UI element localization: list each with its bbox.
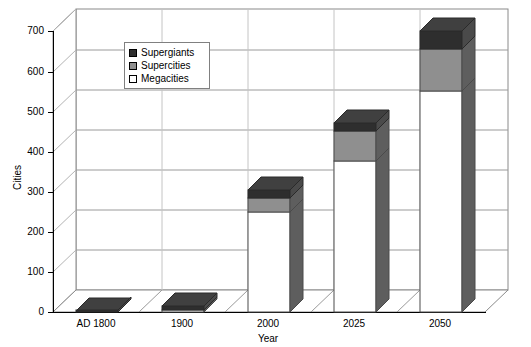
legend-label-supergiants: Supergiants (141, 47, 194, 58)
bar-2050-megacities-side (462, 78, 475, 312)
legend-swatch-megacities-icon (129, 75, 137, 83)
legend-label-supercities: Supercities (141, 60, 190, 71)
legend-swatch-supergiants-icon (129, 49, 137, 57)
bar-2050-megacities-front (420, 91, 462, 312)
legend-item-supergiants[interactable]: Supergiants (129, 46, 204, 59)
legend-label-megacities: Megacities (141, 73, 189, 84)
bar-2050-supergiants-front (420, 31, 462, 49)
bar-2050-supercities-front (420, 49, 462, 91)
legend-item-supercities[interactable]: Supercities (129, 59, 204, 72)
legend: Supergiants Supercities Megacities (124, 42, 210, 89)
chart-container: 0 100 200 300 400 500 600 700 Cities AD … (0, 0, 531, 347)
legend-swatch-supercities-icon (129, 62, 137, 70)
bar-2050[interactable] (0, 0, 531, 347)
legend-item-megacities[interactable]: Megacities (129, 72, 204, 85)
